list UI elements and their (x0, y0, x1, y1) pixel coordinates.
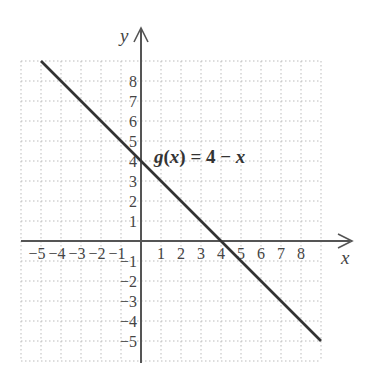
y-tick-label: 7 (129, 93, 137, 110)
y-tick-label: 1 (129, 213, 137, 230)
x-tick-label: 6 (257, 245, 265, 262)
equation-label: g(x) = 4 − x (153, 146, 246, 168)
x-tick-label: 1 (157, 245, 165, 262)
x-tick-label: −4 (48, 245, 65, 262)
grid (21, 61, 321, 361)
x-tick-label: −3 (68, 245, 85, 262)
y-tick-label: 8 (129, 73, 137, 90)
y-tick-label: −1 (120, 253, 137, 270)
axes: x y (21, 25, 352, 363)
x-tick-label: 7 (277, 245, 285, 262)
x-tick-label: −2 (88, 245, 105, 262)
y-tick-label: 5 (129, 133, 137, 150)
y-tick-label: −2 (120, 273, 137, 290)
y-tick-label: −5 (120, 333, 137, 350)
x-tick-label: 2 (177, 245, 185, 262)
y-tick-label: −4 (120, 313, 137, 330)
x-tick-label: 8 (297, 245, 305, 262)
x-tick-label: −5 (28, 245, 45, 262)
y-tick-label: −3 (120, 293, 137, 310)
x-tick-label: 4 (217, 245, 225, 262)
graph-canvas: x y −5−4−3−2−11234567887654321−1−2−3−4−5… (0, 0, 371, 380)
function-line-g (41, 61, 321, 341)
y-tick-label: 6 (129, 113, 137, 130)
y-tick-label: 3 (129, 173, 137, 190)
y-tick-label: 2 (129, 193, 137, 210)
x-tick-label: 3 (197, 245, 205, 262)
x-axis-label: x (340, 247, 350, 268)
y-axis-label: y (118, 25, 129, 46)
tick-labels: −5−4−3−2−11234567887654321−1−2−3−4−5 (28, 73, 305, 350)
